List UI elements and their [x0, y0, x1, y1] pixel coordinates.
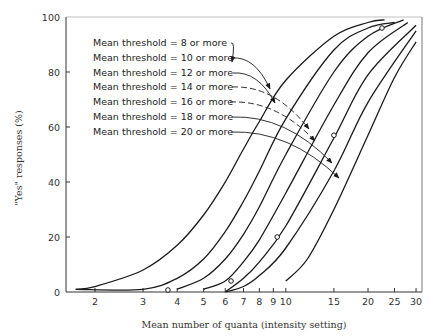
- y-tick-label: 100: [42, 12, 60, 23]
- legend-arrow: [233, 73, 275, 103]
- curve-threshold-14: [204, 23, 408, 290]
- x-tick-label: 4: [174, 296, 180, 307]
- x-axis-title: Mean number of quanta (intensity setting…: [141, 319, 346, 330]
- x-tick-label: 15: [328, 296, 340, 307]
- observed-point: [229, 279, 234, 284]
- x-tick-label: 2: [92, 296, 98, 307]
- x-tick-label: 8: [256, 296, 262, 307]
- legend-arrow: [232, 117, 332, 163]
- legend-label-threshold-18: Mean threshold = 18 or more: [93, 111, 233, 122]
- x-tick-label: 5: [201, 296, 207, 307]
- psychometric-chart: 020406080100 234567891015202530 Mean thr…: [0, 0, 434, 336]
- y-tick-label: 40: [48, 177, 60, 188]
- x-tick-label: 3: [140, 296, 146, 307]
- y-axis-title: "Yes" responses (%): [13, 110, 24, 206]
- legend-label-threshold-10: Mean threshold = 10 or more: [93, 52, 233, 63]
- y-tick-label: 60: [48, 122, 60, 133]
- legend-label-threshold-16: Mean threshold = 16 or more: [93, 96, 233, 107]
- y-tick-label: 80: [48, 67, 60, 78]
- x-tick-label: 20: [362, 296, 374, 307]
- x-ticks: 234567891015202530: [92, 288, 422, 307]
- x-tick-label: 25: [388, 296, 400, 307]
- observed-point: [166, 288, 171, 293]
- x-tick-label: 6: [222, 296, 228, 307]
- x-tick-label: 30: [410, 296, 422, 307]
- legend-arrow: [232, 58, 270, 89]
- observed-point: [380, 26, 385, 31]
- legend: Mean threshold = 8 or moreMean threshold…: [93, 37, 339, 178]
- legend-label-threshold-12: Mean threshold = 12 or more: [93, 67, 233, 78]
- y-tick-label: 0: [54, 287, 60, 298]
- observed-points: [166, 26, 385, 293]
- curve-threshold-20: [286, 42, 416, 281]
- legend-label-threshold-14: Mean threshold = 14 or more: [93, 81, 233, 92]
- x-tick-label: 7: [241, 296, 247, 307]
- y-tick-label: 20: [48, 232, 60, 243]
- x-tick-label: 10: [280, 296, 292, 307]
- legend-label-threshold-8: Mean threshold = 8 or more: [93, 37, 227, 48]
- observed-point: [332, 133, 337, 138]
- legend-label-threshold-20: Mean threshold = 20 or more: [93, 126, 233, 137]
- observed-point: [275, 235, 280, 240]
- x-tick-label: 9: [270, 296, 276, 307]
